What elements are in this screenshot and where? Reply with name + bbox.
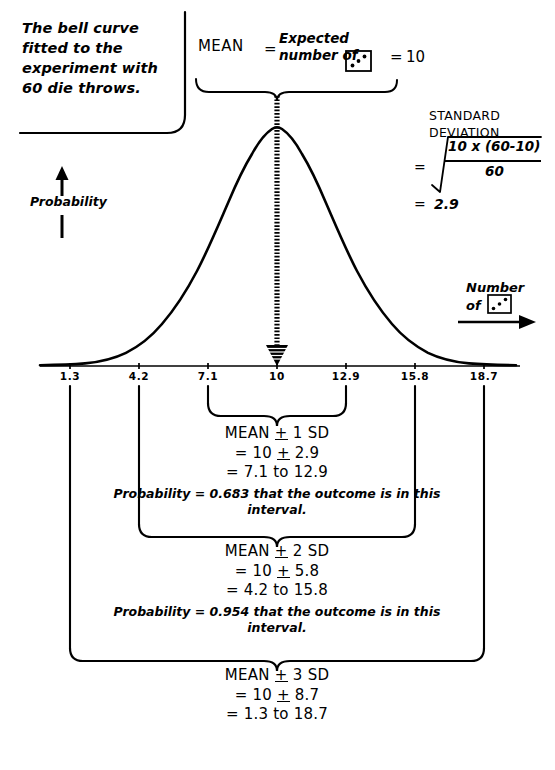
tick-label: 18.7 <box>470 370 498 382</box>
tick-label: 12.9 <box>332 370 360 382</box>
sd-line-post: 5.8 <box>290 562 319 580</box>
sd-value: 2.9 <box>434 196 459 213</box>
sd-block-probability: Probability = 0.683 that the outcome is … <box>107 486 447 519</box>
sd-block-1: MEAN + 1 SD = 10 + 2.9 = 7.1 to 12.9 Pro… <box>107 424 447 519</box>
sd-block-line-b: = 1.3 to 18.7 <box>107 705 447 723</box>
sd-equals-1: = <box>414 159 426 176</box>
sd-line-pre: = 10 <box>235 562 277 580</box>
sd-numerator: 10 x (60-10) <box>448 139 540 155</box>
mean-brace <box>196 79 397 101</box>
mean-value: 10 <box>406 49 425 67</box>
sd-heading-post: 3 SD <box>288 666 330 684</box>
tick-label: 15.8 <box>401 370 429 382</box>
plus-minus-symbol: + <box>275 666 288 684</box>
standard-deviation-title: STANDARD DEVIATION <box>429 108 500 142</box>
callout-text: The bell curve fitted to the experiment … <box>22 18 182 98</box>
sd-equals-2: = <box>414 196 426 213</box>
sd-block-heading: MEAN + 1 SD <box>107 424 447 442</box>
die-three-icon-axis <box>488 295 511 313</box>
sd-block-heading: MEAN + 3 SD <box>107 666 447 684</box>
y-axis-label: Probability <box>30 195 107 210</box>
sd-line-post: 8.7 <box>290 686 319 704</box>
plus-minus-symbol: + <box>277 444 290 462</box>
x-axis-label-line2: of <box>466 298 481 313</box>
sd-block-3: MEAN + 3 SD = 10 + 8.7 = 1.3 to 18.7 <box>107 666 447 724</box>
sd-block-line-a: = 10 + 8.7 <box>107 686 447 704</box>
sd-heading-pre: MEAN <box>225 424 275 442</box>
x-axis-label-line1: Number <box>466 280 524 295</box>
plus-minus-symbol: + <box>275 424 288 442</box>
mean-arrowhead <box>264 345 290 366</box>
sd-heading-pre: MEAN <box>225 542 275 560</box>
sd-heading-post: 1 SD <box>288 424 330 442</box>
sd-line-pre: = 10 <box>235 686 277 704</box>
sd-block-line-b: = 4.2 to 15.8 <box>107 581 447 599</box>
sd-block-probability: Probability = 0.954 that the outcome is … <box>107 604 447 637</box>
sd-block-2: MEAN + 2 SD = 10 + 5.8 = 4.2 to 15.8 Pro… <box>107 542 447 637</box>
mean-label: MEAN <box>198 38 244 56</box>
sd-heading-post: 2 SD <box>288 542 330 560</box>
sd-block-line-a: = 10 + 2.9 <box>107 444 447 462</box>
sd-heading-pre: MEAN <box>225 666 275 684</box>
sd-line-pre: = 10 <box>235 444 277 462</box>
sd-block-heading: MEAN + 2 SD <box>107 542 447 560</box>
tick-label: 10 <box>269 370 285 382</box>
mean-equals-1: = <box>264 41 277 59</box>
plus-minus-symbol: + <box>275 542 288 560</box>
tick-label: 4.2 <box>129 370 149 382</box>
number-of-axis-arrow <box>458 315 536 329</box>
tick-label: 7.1 <box>198 370 218 382</box>
sd-line-post: 2.9 <box>290 444 319 462</box>
mean-expected-text: Expected number of <box>279 30 358 64</box>
plus-minus-symbol: + <box>277 562 290 580</box>
plus-minus-symbol: + <box>277 686 290 704</box>
sd-block-line-b: = 7.1 to 12.9 <box>107 463 447 481</box>
tick-label: 1.3 <box>60 370 80 382</box>
sd-denominator: 60 <box>485 164 504 180</box>
sd-block-line-a: = 10 + 5.8 <box>107 562 447 580</box>
mean-equals-2: = <box>390 49 403 67</box>
brace-1sd <box>208 403 346 426</box>
